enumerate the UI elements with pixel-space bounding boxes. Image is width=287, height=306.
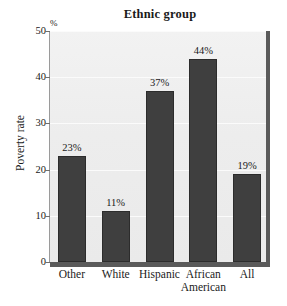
bar	[233, 174, 261, 262]
chart-title: Ethnic group	[50, 7, 270, 22]
y-tick-label: 10	[10, 211, 46, 221]
y-tick-label: 20	[10, 165, 46, 175]
bar-value-label: 37%	[135, 77, 185, 88]
y-tick-label: 50	[10, 26, 46, 36]
x-axis-line	[50, 262, 270, 267]
y-tick-label: 0	[10, 257, 46, 267]
bar-value-label: 19%	[222, 160, 272, 171]
y-tick-label: 30	[10, 118, 46, 128]
bar	[58, 156, 86, 262]
bar-value-label: 23%	[47, 142, 97, 153]
y-tick-label: 40	[10, 72, 46, 82]
y-tick-mark	[45, 77, 50, 78]
y-axis-title: Poverty rate	[14, 78, 26, 208]
bar	[146, 91, 174, 262]
y-tick-mark	[45, 216, 50, 217]
y-tick-mark	[45, 31, 50, 32]
y-tick-mark	[45, 123, 50, 124]
y-tick-mark	[45, 170, 50, 171]
plot-right-border	[266, 31, 270, 262]
gridline	[50, 31, 269, 32]
x-category-label: All	[217, 268, 277, 281]
bar	[102, 211, 130, 262]
bar-value-label: 44%	[178, 45, 228, 56]
bar-chart: Ethnic group Poverty rate % 01020304050 …	[0, 0, 287, 306]
bar	[189, 59, 217, 262]
y-tick-mark	[45, 262, 50, 263]
bar-value-label: 11%	[91, 197, 141, 208]
y-axis-unit-label: %	[50, 19, 58, 28]
